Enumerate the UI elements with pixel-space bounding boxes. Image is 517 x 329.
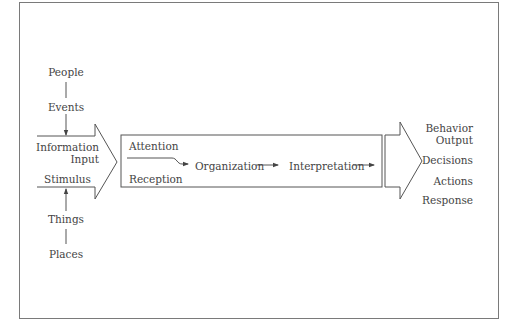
label-input: Input [70,153,99,165]
stage-interpretation: Interpretation [289,160,364,172]
stage-organization: Organization [195,160,264,172]
output-behavior: Behavior [425,122,473,134]
stage-reception: Reception [129,173,183,185]
label-stimulus: Stimulus [44,173,91,185]
source-people: People [48,66,83,78]
output-decisions: Decisions [422,154,473,166]
attention-reception-arrow [127,158,188,164]
label-information: Information [36,141,99,153]
stage-attention: Attention [129,140,178,152]
output-actions: Actions [433,175,473,187]
output-output: Output [436,134,473,146]
source-places: Places [49,248,83,260]
source-events: Events [48,101,84,113]
output-response: Response [422,194,473,206]
source-things: Things [48,213,84,225]
output-arrow-shape [385,122,422,199]
